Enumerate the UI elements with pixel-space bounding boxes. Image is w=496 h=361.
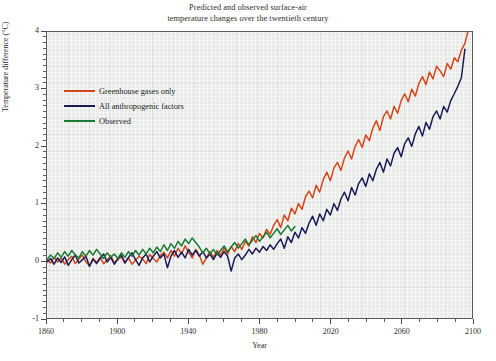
x-tick-minor	[99, 319, 100, 322]
y-tick-minor	[43, 244, 46, 245]
legend-label-greenhouse: Greenhouse gases only	[99, 84, 176, 99]
y-tick-major	[41, 203, 46, 204]
x-tick-minor	[170, 319, 171, 322]
x-tick-major	[117, 319, 118, 324]
x-tick-label: 1940	[168, 327, 208, 336]
x-tick-label: 1980	[240, 327, 280, 336]
y-tick-minor	[43, 272, 46, 273]
y-tick-label: 1	[21, 198, 39, 207]
y-tick-label: 0	[21, 256, 39, 265]
x-tick-major	[46, 319, 47, 324]
y-tick-minor	[43, 307, 46, 308]
x-tick-label: 2100	[453, 327, 493, 336]
x-tick-minor	[312, 319, 313, 322]
y-tick-minor	[43, 186, 46, 187]
chart-figure: Predicted and observed surface-air tempe…	[0, 0, 496, 361]
y-tick-minor	[43, 100, 46, 101]
legend-label-observed: Observed	[99, 114, 131, 129]
x-tick-major	[401, 319, 402, 324]
y-tick-minor	[43, 284, 46, 285]
series-line	[47, 49, 465, 271]
y-tick-minor	[43, 42, 46, 43]
chart-title-line-1: Predicted and observed surface-air	[0, 2, 496, 13]
y-tick-minor	[43, 157, 46, 158]
x-tick-major	[473, 319, 474, 324]
y-tick-minor	[43, 94, 46, 95]
legend-swatch-observed	[64, 120, 95, 122]
x-tick-major	[259, 319, 260, 324]
y-tick-label: 4	[21, 26, 39, 35]
x-tick-minor	[295, 319, 296, 322]
y-tick-minor	[43, 301, 46, 302]
x-tick-minor	[437, 319, 438, 322]
plot-area	[46, 31, 473, 319]
y-tick-minor	[43, 54, 46, 55]
series-line	[47, 32, 468, 265]
y-tick-label: -1	[21, 314, 39, 323]
y-tick-minor	[43, 77, 46, 78]
chart-legend: Greenhouse gases only All anthropogenic …	[64, 84, 244, 129]
x-tick-minor	[63, 319, 64, 322]
x-tick-label: 1860	[26, 327, 66, 336]
legend-item-greenhouse-gases-only: Greenhouse gases only	[64, 84, 244, 99]
x-tick-minor	[455, 319, 456, 322]
y-tick-minor	[43, 71, 46, 72]
series-layer	[47, 32, 472, 318]
y-tick-minor	[43, 117, 46, 118]
x-tick-minor	[81, 319, 82, 322]
x-tick-label: 2060	[382, 327, 422, 336]
series-line	[47, 225, 295, 259]
legend-swatch-anthropogenic	[64, 105, 95, 107]
legend-item-observed: Observed	[64, 114, 244, 129]
chart-title-line-2: temperature changes over the twentieth c…	[0, 13, 496, 24]
y-tick-major	[41, 261, 46, 262]
x-tick-minor	[241, 319, 242, 322]
y-tick-minor	[43, 111, 46, 112]
y-tick-minor	[43, 105, 46, 106]
y-tick-minor	[43, 36, 46, 37]
y-tick-major	[41, 31, 46, 32]
y-tick-minor	[43, 255, 46, 256]
y-tick-minor	[43, 238, 46, 239]
y-tick-major	[41, 88, 46, 89]
y-tick-minor	[43, 48, 46, 49]
x-tick-label: 2020	[311, 327, 351, 336]
legend-swatch-greenhouse	[64, 90, 95, 92]
y-tick-minor	[43, 192, 46, 193]
x-tick-major	[330, 319, 331, 324]
y-tick-minor	[43, 295, 46, 296]
y-tick-minor	[43, 123, 46, 124]
x-tick-minor	[277, 319, 278, 322]
y-tick-minor	[43, 163, 46, 164]
y-tick-minor	[43, 226, 46, 227]
y-tick-minor	[43, 221, 46, 222]
y-tick-major	[41, 146, 46, 147]
x-tick-minor	[152, 319, 153, 322]
y-tick-minor	[43, 267, 46, 268]
y-tick-minor	[43, 249, 46, 250]
y-tick-label: 3	[21, 83, 39, 92]
y-tick-minor	[43, 169, 46, 170]
y-tick-minor	[43, 151, 46, 152]
y-tick-minor	[43, 175, 46, 176]
y-tick-minor	[43, 290, 46, 291]
legend-label-anthropogenic: All anthropogenic factors	[99, 99, 184, 114]
y-tick-minor	[43, 232, 46, 233]
y-tick-minor	[43, 198, 46, 199]
x-tick-minor	[206, 319, 207, 322]
x-tick-minor	[366, 319, 367, 322]
x-tick-minor	[348, 319, 349, 322]
y-tick-minor	[43, 278, 46, 279]
y-tick-label: 2	[21, 141, 39, 150]
x-tick-major	[188, 319, 189, 324]
x-tick-minor	[384, 319, 385, 322]
y-tick-minor	[43, 65, 46, 66]
x-axis-title: Year	[46, 341, 473, 350]
y-tick-minor	[43, 180, 46, 181]
x-tick-label: 1900	[97, 327, 137, 336]
legend-item-all-anthropogenic-factors: All anthropogenic factors	[64, 99, 244, 114]
chart-title: Predicted and observed surface-air tempe…	[0, 2, 496, 24]
x-tick-minor	[223, 319, 224, 322]
y-tick-minor	[43, 140, 46, 141]
y-tick-minor	[43, 215, 46, 216]
